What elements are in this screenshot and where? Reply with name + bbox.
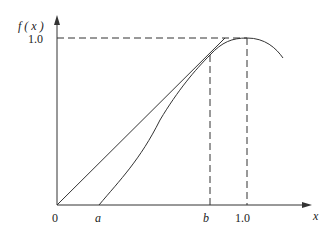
curve: [99, 38, 283, 205]
figure: f ( x ) 1.0 0 a b 1.0 x: [0, 0, 336, 237]
x-axis-label: x: [313, 210, 318, 222]
y-tick-1: 1.0: [28, 33, 43, 45]
x-tick-a: a: [95, 212, 101, 224]
y-axis-label: f ( x ): [18, 20, 44, 32]
y-axis-arrow-icon: [54, 15, 60, 25]
x-tick-1: 1.0: [235, 212, 250, 224]
x-axis-arrow-icon: [302, 202, 312, 208]
plot-svg: [0, 0, 336, 237]
x-tick-b: b: [203, 212, 209, 224]
straight-line: [57, 38, 225, 205]
x-tick-0: 0: [52, 212, 58, 224]
